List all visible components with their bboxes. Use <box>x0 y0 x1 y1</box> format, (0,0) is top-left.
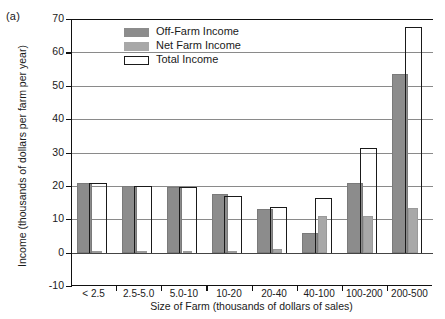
legend-label-off-farm: Off-Farm Income <box>156 25 239 39</box>
legend-item-total: Total Income <box>124 53 241 67</box>
y-tick-label: -10 <box>24 279 64 291</box>
x-axis-label: Size of Farm (thousands of dollars of sa… <box>71 300 432 312</box>
legend-item-off-farm: Off-Farm Income <box>124 25 241 39</box>
legend-label-total: Total Income <box>156 53 218 67</box>
x-tick-label: 5.0-10 <box>161 288 206 299</box>
gridline <box>72 119 433 120</box>
y-tick-label: 40 <box>24 112 64 124</box>
bar-total-income <box>89 183 107 253</box>
x-tick-label: 40-100 <box>297 288 342 299</box>
bar-total-income <box>179 187 197 253</box>
bar-total-income <box>270 207 288 253</box>
x-tick-label: 200-500 <box>387 288 432 299</box>
y-tick-label: 50 <box>24 79 64 91</box>
legend-swatch-net-farm-icon <box>124 42 149 51</box>
legend: Off-Farm Income Net Farm Income Total In… <box>124 25 241 67</box>
x-tick-label: 20-40 <box>252 288 297 299</box>
bar-total-income <box>315 198 333 253</box>
bar-total-income <box>360 148 378 253</box>
figure-panel: (a) Income (thousands of dollars per far… <box>0 0 445 319</box>
x-tick-label: 10-20 <box>206 288 251 299</box>
x-tick-label: 2.5-5.0 <box>116 288 161 299</box>
bar-total-income <box>224 196 242 253</box>
y-tick-label: 60 <box>24 45 64 57</box>
y-tick-label: 0 <box>24 246 64 258</box>
x-tick-label: 100-200 <box>342 288 387 299</box>
x-tick-label: < 2.5 <box>71 288 116 299</box>
legend-label-net-farm: Net Farm Income <box>156 39 241 53</box>
zero-line <box>72 253 433 254</box>
legend-swatch-off-farm-icon <box>124 28 149 37</box>
y-tick-label: 30 <box>24 146 64 158</box>
y-tick-label: 10 <box>24 212 64 224</box>
gridline <box>72 153 433 154</box>
plot-top-border <box>72 19 433 20</box>
y-tick-label: 70 <box>24 12 64 24</box>
y-tick-label: 20 <box>24 179 64 191</box>
bar-total-income <box>405 27 423 252</box>
legend-swatch-total-icon <box>124 56 149 65</box>
gridline <box>72 86 433 87</box>
y-tick-mark <box>66 286 72 287</box>
bar-total-income <box>134 186 152 253</box>
legend-item-net-farm: Net Farm Income <box>124 39 241 53</box>
